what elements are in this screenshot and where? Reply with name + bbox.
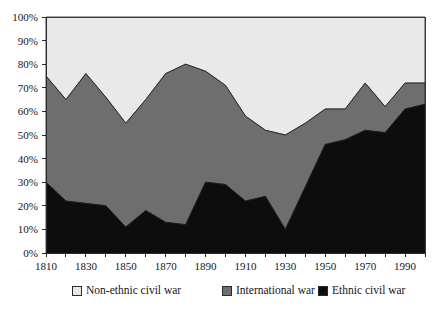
stacked-area-chart-figure: 0%10%20%30%40%50%60%70%80%90%100% 181018… [0,0,439,313]
x-axis-tick-label: 1810 [35,260,58,272]
x-axis-tick-label: 1910 [234,260,257,272]
y-axis-tick-label: 90% [18,35,38,47]
legend-label: Ethnic civil war [332,284,406,296]
y-axis-tick-label: 20% [18,200,38,212]
chart-legend: Non-ethnic civil warInternational warEth… [72,284,406,296]
x-axis-tick-label: 1950 [314,260,337,272]
legend-label: International war [236,284,315,296]
legend-swatch-square-filled-swatch [222,286,231,295]
y-axis-tick-label: 60% [18,105,38,117]
legend-label: Non-ethnic civil war [86,284,181,296]
y-axis-tick-label: 100% [12,11,38,23]
x-axis-tick-label: 1890 [195,260,218,272]
y-axis-tick-label: 50% [18,129,38,141]
y-axis: 0%10%20%30%40%50%60%70%80%90%100% [12,11,46,259]
x-axis-tick-label: 1870 [155,260,178,272]
y-axis-tick-label: 70% [18,82,38,94]
legend-swatch-square-filled-swatch [318,286,327,295]
y-axis-tick-label: 30% [18,176,38,188]
x-axis: 1810183018501870189019101930195019701990 [35,253,425,272]
legend-swatch-square-outline-swatch [72,286,81,295]
x-axis-tick-label: 1970 [354,260,377,272]
x-axis-tick-label: 1930 [274,260,297,272]
y-axis-tick-label: 40% [18,153,38,165]
x-axis-tick-label: 1990 [394,260,417,272]
y-axis-tick-label: 0% [23,247,38,259]
x-axis-tick-label: 1830 [75,260,98,272]
chart-canvas: 0%10%20%30%40%50%60%70%80%90%100% 181018… [0,0,439,313]
x-axis-tick-label: 1850 [115,260,138,272]
y-axis-tick-label: 10% [18,223,38,235]
y-axis-tick-label: 80% [18,58,38,70]
series-layer [46,17,425,253]
